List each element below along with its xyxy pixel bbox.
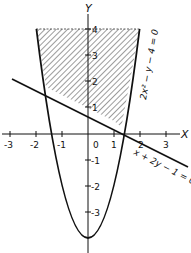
y-tick-label: 3 <box>92 51 98 61</box>
diagram-canvas: X -3 -2 -1 0 1 2 3 Y 4 3 2 <box>0 0 191 253</box>
x-tick-label: -2 <box>30 140 39 150</box>
parabola-equation-label: 2x² − y − 4 = 0 <box>138 28 160 100</box>
y-tick-label: -3 <box>91 208 100 218</box>
x-axis-label: X <box>180 128 189 141</box>
x-tick-label: 1 <box>111 140 117 150</box>
y-tick-label: -1 <box>91 156 100 166</box>
y-tick-label: -2 <box>91 182 100 192</box>
y-tick-label: 2 <box>92 77 98 87</box>
y-tick-label: 4 <box>92 25 98 35</box>
y-axis-label: Y <box>85 2 93 15</box>
x-axis: X -3 -2 -1 0 1 2 3 <box>2 128 189 150</box>
x-tick-label: -1 <box>57 140 66 150</box>
x-tick-label: 3 <box>163 140 169 150</box>
x-tick-label: -3 <box>4 140 13 150</box>
line-equation-label: x + 2y − 1 = 0 <box>131 146 191 186</box>
x-tick-label: 0 <box>93 140 99 150</box>
y-tick-label: 1 <box>92 103 98 113</box>
